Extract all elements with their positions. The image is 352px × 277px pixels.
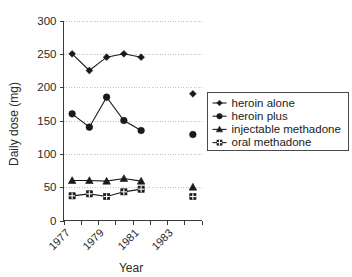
legend-item-injectable-methadone[interactable]: injectable methadone (213, 123, 341, 135)
x-tick-label: 1979 (80, 226, 106, 252)
y-tick-label: 0 (50, 215, 56, 227)
series-heroin-plus (69, 94, 196, 138)
data-point-marker (190, 131, 197, 138)
legend-label: injectable methadone (232, 123, 341, 135)
series-heroin-alone (69, 50, 197, 97)
line-chart: 050100150200250300 1977197919811983 Year… (0, 0, 352, 277)
x-tick-label: 1977 (46, 226, 72, 252)
y-tick-label: 250 (37, 48, 56, 60)
y-tick-label: 300 (37, 15, 56, 27)
data-point-marker (69, 111, 76, 118)
gridlines (64, 22, 203, 188)
y-axis-title: Daily dose (mg) (7, 82, 21, 166)
x-axis-tick-labels: 1977197919811983 (46, 226, 175, 252)
data-point-marker (121, 117, 128, 124)
series-oral-methadone (69, 186, 196, 200)
y-tick-label: 100 (37, 148, 56, 160)
data-point-marker (138, 127, 145, 134)
y-tick-label: 200 (37, 81, 56, 93)
data-point-marker (189, 90, 196, 97)
legend-label: oral methadone (232, 136, 312, 148)
x-axis-title: Year (119, 261, 143, 275)
data-point-marker (189, 183, 197, 190)
x-tick-label: 1983 (149, 226, 175, 252)
series-line (72, 97, 141, 130)
x-tick-label: 1981 (115, 226, 141, 252)
legend-label: heroin alone (232, 97, 295, 109)
data-series-layer (68, 50, 196, 199)
data-point-marker (217, 113, 222, 118)
x-axis-ticks (65, 221, 203, 225)
legend-label: heroin plus (232, 110, 289, 122)
y-axis-tick-labels: 050100150200250300 (37, 15, 56, 227)
data-point-marker (120, 175, 128, 182)
data-point-marker (138, 54, 145, 61)
y-axis-ticks (60, 22, 64, 222)
data-point-marker (103, 94, 110, 101)
legend: heroin aloneheroin plusinjectable methad… (208, 93, 349, 151)
y-tick-label: 150 (37, 115, 56, 127)
chart-container: 050100150200250300 1977197919811983 Year… (0, 0, 352, 277)
y-tick-label: 50 (44, 181, 57, 193)
data-point-marker (120, 50, 127, 57)
data-point-marker (86, 124, 93, 131)
